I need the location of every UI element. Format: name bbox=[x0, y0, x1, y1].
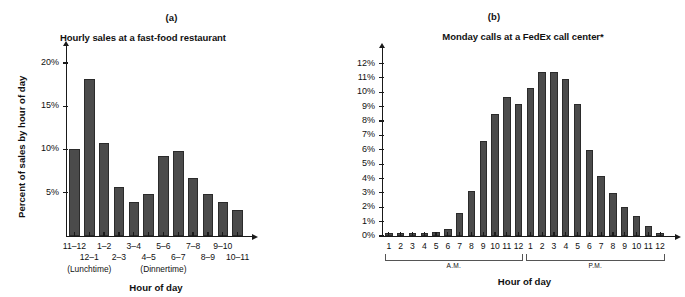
bar bbox=[143, 194, 154, 236]
x-axis-label-b: Hour of day bbox=[383, 276, 666, 287]
x-tick-a bbox=[103, 232, 104, 236]
bar bbox=[129, 202, 140, 236]
y-tick-b bbox=[379, 164, 384, 165]
bar bbox=[586, 150, 593, 236]
plot-area-a: 5%10%15%20%11–1212–11–22–33–44–55–66–77–… bbox=[0, 0, 343, 297]
y-tick-a bbox=[63, 62, 68, 63]
bar bbox=[468, 191, 475, 236]
x-tick-a bbox=[178, 232, 179, 236]
y-tick-b bbox=[379, 106, 384, 107]
x-tick-label-a: 9–10 bbox=[203, 241, 243, 251]
bracket-am bbox=[385, 254, 524, 261]
y-tick-label-b: 4% bbox=[343, 173, 375, 183]
y-tick-label-a: 5% bbox=[25, 187, 59, 197]
x-tick-b bbox=[400, 232, 401, 236]
bar bbox=[527, 88, 534, 236]
x-tick-a bbox=[192, 232, 193, 236]
x-tick-b bbox=[624, 232, 625, 236]
bar bbox=[69, 149, 80, 236]
x-tick-a bbox=[163, 232, 164, 236]
bar bbox=[173, 151, 184, 236]
x-tick-b bbox=[589, 232, 590, 236]
bar bbox=[515, 104, 522, 236]
y-tick-a bbox=[63, 149, 68, 150]
bar bbox=[84, 79, 95, 236]
x-tick-b bbox=[518, 232, 519, 236]
y-tick-label-b: 3% bbox=[343, 187, 375, 197]
y-tick-label-b: 11% bbox=[343, 72, 375, 82]
y-tick-label-a: 10% bbox=[25, 143, 59, 153]
x-tick-b bbox=[530, 232, 531, 236]
x-tick-b bbox=[412, 232, 413, 236]
x-tick-a bbox=[207, 232, 208, 236]
x-axis-a bbox=[66, 236, 252, 237]
x-axis-b bbox=[382, 236, 675, 237]
x-tick-b bbox=[648, 232, 649, 236]
x-tick-b bbox=[636, 232, 637, 236]
x-tick-b bbox=[459, 232, 460, 236]
x-tick-label-b: 12 bbox=[651, 241, 669, 251]
bar bbox=[99, 143, 110, 236]
annotation-lunchtime: (Lunchtime) bbox=[56, 264, 122, 274]
plot-area-b: 0%1%2%3%4%5%6%7%8%9%10%11%12%12345678910… bbox=[343, 0, 685, 297]
bracket-pm bbox=[526, 254, 665, 261]
x-tick-b bbox=[471, 232, 472, 236]
y-tick-label-b: 0% bbox=[343, 230, 375, 240]
x-tick-b bbox=[435, 232, 436, 236]
bar bbox=[538, 72, 545, 236]
y-tick-b bbox=[379, 235, 384, 236]
y-tick-label-a: 15% bbox=[25, 100, 59, 110]
y-tick-label-b: 2% bbox=[343, 201, 375, 211]
bracket-label-pm: P.M. bbox=[526, 262, 665, 269]
x-tick-a bbox=[237, 232, 238, 236]
y-tick-b bbox=[379, 135, 384, 136]
y-tick-b bbox=[379, 120, 384, 121]
x-tick-b bbox=[577, 232, 578, 236]
y-tick-label-b: 7% bbox=[343, 129, 375, 139]
y-tick-a bbox=[63, 192, 68, 193]
y-tick-b bbox=[379, 92, 384, 93]
x-tick-b bbox=[388, 232, 389, 236]
bar bbox=[609, 193, 616, 236]
y-tick-b bbox=[379, 178, 384, 179]
bracket-label-am: A.M. bbox=[385, 262, 524, 269]
x-tick-b bbox=[553, 232, 554, 236]
y-tick-label-b: 9% bbox=[343, 101, 375, 111]
bar bbox=[574, 104, 581, 236]
y-tick-b bbox=[379, 192, 384, 193]
y-axis-label-a: Percent of sales by hour of day bbox=[16, 76, 27, 218]
bar bbox=[203, 194, 214, 236]
bar bbox=[218, 202, 229, 236]
y-axis-arrow-a bbox=[63, 41, 69, 46]
bar bbox=[188, 178, 199, 236]
y-axis-arrow-b bbox=[379, 43, 385, 48]
y-tick-label-b: 5% bbox=[343, 158, 375, 168]
annotation-dinnertime: (Dinnertime) bbox=[130, 264, 196, 274]
x-tick-b bbox=[612, 232, 613, 236]
y-tick-b bbox=[379, 63, 384, 64]
x-tick-a bbox=[148, 232, 149, 236]
bar bbox=[597, 176, 604, 236]
x-tick-b bbox=[565, 232, 566, 236]
y-tick-b bbox=[379, 221, 384, 222]
x-tick-a bbox=[118, 232, 119, 236]
y-tick-label-b: 12% bbox=[343, 58, 375, 68]
x-tick-b bbox=[424, 232, 425, 236]
x-tick-b bbox=[660, 232, 661, 236]
figure-root: (a) Hourly sales at a fast-food restaura… bbox=[0, 0, 685, 297]
x-tick-a bbox=[222, 232, 223, 236]
y-tick-a bbox=[63, 106, 68, 107]
y-tick-label-b: 8% bbox=[343, 115, 375, 125]
bar bbox=[491, 114, 498, 236]
x-tick-b bbox=[542, 232, 543, 236]
y-tick-label-b: 10% bbox=[343, 86, 375, 96]
bar bbox=[550, 72, 557, 236]
x-axis-arrow-b bbox=[675, 234, 681, 240]
x-tick-b bbox=[483, 232, 484, 236]
x-tick-b bbox=[506, 232, 507, 236]
y-axis-a bbox=[66, 46, 67, 236]
x-tick-b bbox=[447, 232, 448, 236]
x-axis-arrow-a bbox=[252, 234, 258, 240]
y-tick-label-b: 1% bbox=[343, 216, 375, 226]
y-tick-b bbox=[379, 207, 384, 208]
